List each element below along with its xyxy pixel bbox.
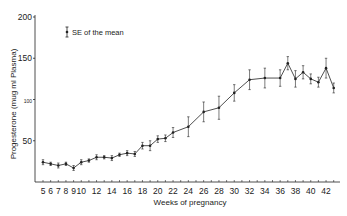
x-tick-label: 30 xyxy=(230,186,240,196)
data-point xyxy=(294,71,297,88)
data-point xyxy=(42,160,45,165)
data-point xyxy=(134,151,137,156)
data-point xyxy=(72,166,75,171)
data-point xyxy=(156,136,159,143)
data-point xyxy=(118,153,121,156)
x-tick-label: 34 xyxy=(260,186,270,196)
x-tick-label: 24 xyxy=(184,186,194,196)
x-tick-label: 40 xyxy=(306,186,316,196)
x-tick-label: 6 xyxy=(48,186,53,196)
x-tick-label: 5 xyxy=(41,186,46,196)
progesterone-chart: 50100150200 5678910121416182022242628303… xyxy=(0,0,347,216)
data-point xyxy=(287,57,290,70)
data-point xyxy=(57,163,60,168)
x-tick-label: 38 xyxy=(291,186,301,196)
data-point xyxy=(233,85,236,102)
data-series xyxy=(42,57,335,171)
x-tick-label: 22 xyxy=(168,186,178,196)
legend-label: SE of the mean xyxy=(72,28,124,37)
y-tick-label: 200 xyxy=(18,12,32,22)
y-axis-title: Progesterone (mug ml Plasma) xyxy=(9,48,18,159)
data-point xyxy=(65,162,68,165)
x-tick-label: 12 xyxy=(92,186,102,196)
data-point xyxy=(172,128,175,138)
data-point xyxy=(187,117,190,137)
data-point xyxy=(279,70,282,87)
data-point xyxy=(49,162,52,165)
x-tick-label: 18 xyxy=(138,186,148,196)
x-tick-label: 42 xyxy=(321,186,331,196)
x-tick-label: 7 xyxy=(56,186,61,196)
mean-line xyxy=(43,63,334,168)
x-axis: 567891012141618202224262830323436384042 xyxy=(35,180,340,196)
legend: SE of the mean xyxy=(66,27,124,37)
x-tick-label: 32 xyxy=(245,186,255,196)
data-point xyxy=(103,156,106,159)
data-point xyxy=(95,155,98,160)
data-point xyxy=(309,74,312,84)
y-tick-label: 100 xyxy=(24,98,33,104)
x-tick-label: 20 xyxy=(153,186,163,196)
data-point xyxy=(302,66,305,79)
x-tick-label: 28 xyxy=(214,186,224,196)
data-point xyxy=(80,160,83,165)
y-tick-label: 50 xyxy=(23,136,33,146)
x-axis-title: Weeks of pregnancy xyxy=(154,198,227,207)
y-axis: 50100150200 xyxy=(18,12,35,182)
data-point xyxy=(149,141,152,151)
data-point xyxy=(317,77,320,87)
x-tick-label: 8 xyxy=(64,186,69,196)
x-tick-label: 36 xyxy=(275,186,285,196)
data-point xyxy=(202,102,205,122)
data-point xyxy=(164,135,167,142)
data-point xyxy=(218,96,221,119)
x-tick-label: 10 xyxy=(77,186,87,196)
x-tick-label: 14 xyxy=(107,186,117,196)
data-point xyxy=(248,70,251,90)
x-tick-label: 26 xyxy=(199,186,209,196)
y-tick-label: 150 xyxy=(18,53,32,63)
data-point xyxy=(325,58,328,78)
data-point xyxy=(88,159,91,162)
data-point xyxy=(126,151,129,156)
data-point xyxy=(141,142,144,149)
x-tick-label: 16 xyxy=(122,186,132,196)
data-point xyxy=(264,68,267,88)
x-tick-label: 9 xyxy=(71,186,76,196)
data-point xyxy=(111,156,114,161)
